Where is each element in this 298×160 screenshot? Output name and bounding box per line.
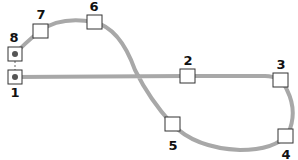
node-label-1: 1 (10, 85, 19, 100)
dot-icon (12, 74, 18, 80)
node-2[interactable]: 2 (180, 53, 195, 83)
node-8[interactable]: 8 (8, 30, 22, 61)
node-label-7: 7 (36, 7, 45, 22)
node-4[interactable]: 4 (278, 129, 293, 160)
node-label-2: 2 (183, 53, 192, 68)
node-label-3: 3 (276, 57, 285, 72)
node-1[interactable]: 1 (8, 70, 22, 100)
track-path (15, 20, 293, 150)
node-label-6: 6 (89, 0, 98, 14)
node-5[interactable]: 5 (165, 117, 180, 153)
node-6[interactable]: 6 (87, 0, 102, 29)
node-label-5: 5 (168, 138, 177, 153)
node-label-8: 8 (9, 30, 18, 45)
node-3[interactable]: 3 (273, 57, 288, 87)
track-diagram: 1 8 7 6 2 3 5 4 (0, 0, 298, 160)
dot-icon (12, 51, 18, 57)
node-7[interactable]: 7 (33, 7, 48, 38)
node-label-4: 4 (281, 147, 290, 160)
